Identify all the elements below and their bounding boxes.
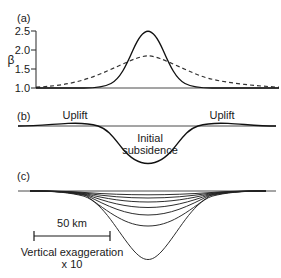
panel-b-uplift-left-label: Uplift: [62, 109, 87, 121]
panel-a-label: (a): [17, 12, 30, 24]
panel-b-subsidence-label: subsidence: [122, 144, 178, 156]
figure-container: (a) 2.5 2.0 1.5 1.0 β (b) Uplift Upli: [0, 0, 281, 278]
tick-label-1-5: 1.5: [15, 63, 30, 75]
panel-a: (a) 2.5 2.0 1.5 1.0 β: [8, 12, 279, 94]
panel-b: (b) Uplift Uplift Initial subsidence: [17, 109, 276, 164]
panel-b-label: (b): [17, 110, 30, 122]
panel-b-initial-label: Initial: [137, 132, 163, 144]
tick-label-2-5: 2.5: [15, 25, 30, 37]
figure-svg: (a) 2.5 2.0 1.5 1.0 β (b) Uplift Upli: [0, 0, 281, 278]
panel-a-axis-title-beta: β: [8, 53, 15, 67]
vertical-exaggeration-factor: x 10: [62, 258, 83, 270]
vertical-exaggeration-label: Vertical exaggeration: [21, 246, 124, 258]
tick-label-1-0: 1.0: [15, 82, 30, 94]
tick-label-2-0: 2.0: [15, 44, 30, 56]
panel-c-curve-4: [30, 191, 266, 208]
panel-a-curve-narrow-solid: [36, 31, 279, 88]
scale-bar-label: 50 km: [57, 217, 87, 229]
panel-c: (c) 50 km Vertical exaggeration x 10: [17, 170, 276, 270]
panel-a-curve-broad-dashed: [36, 56, 279, 87]
scale-bar-group: 50 km: [34, 217, 110, 241]
panel-c-label: (c): [17, 170, 30, 182]
panel-b-uplift-right-label: Uplift: [209, 109, 234, 121]
